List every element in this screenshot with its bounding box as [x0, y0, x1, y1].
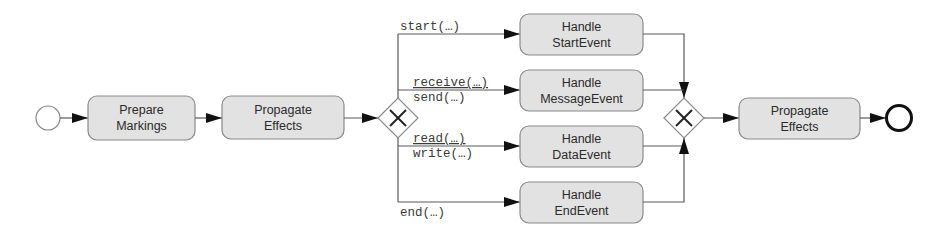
task-label-line1: Handle — [562, 76, 602, 90]
gateway-split[interactable] — [378, 98, 418, 138]
task-label-line2: DataEvent — [552, 148, 611, 162]
flow-start-to-join — [643, 34, 684, 98]
task-label-line1: Handle — [562, 20, 602, 34]
task-label-line1: Propagate — [254, 103, 312, 117]
task-label-line2: StartEvent — [552, 36, 611, 50]
task-label-line1: Handle — [562, 132, 602, 146]
task-prepare-markings[interactable]: Prepare Markings — [88, 96, 195, 140]
task-label-line1: Handle — [562, 188, 602, 202]
task-propagate-effects-1[interactable]: Propagate Effects — [222, 96, 344, 139]
task-label-line2: Effects — [781, 120, 819, 134]
task-label-line2: EndEvent — [554, 204, 609, 218]
flow-label-end: end(…) — [400, 206, 445, 220]
flow-label-send: send(…) — [413, 91, 466, 105]
flow-label-start: start(…) — [400, 20, 460, 34]
task-handle-data-event[interactable]: Handle DataEvent — [520, 126, 643, 167]
task-handle-end-event[interactable]: Handle EndEvent — [520, 182, 643, 223]
task-label-line2: Effects — [264, 119, 302, 133]
process-diagram: Prepare Markings Propagate Effects start… — [0, 0, 946, 241]
flow-label-write: write(…) — [413, 147, 473, 161]
start-event[interactable] — [36, 106, 60, 130]
flow-label-read: read(…) — [413, 132, 466, 146]
task-handle-start-event[interactable]: Handle StartEvent — [520, 14, 643, 55]
task-propagate-effects-2[interactable]: Propagate Effects — [739, 98, 860, 139]
task-handle-message-event[interactable]: Handle MessageEvent — [520, 70, 643, 111]
flow-end-to-join — [643, 138, 684, 202]
flow-label-receive: receive(…) — [413, 76, 488, 90]
gateway-join[interactable] — [664, 98, 704, 138]
end-event[interactable] — [887, 106, 912, 131]
task-label-line1: Prepare — [119, 103, 164, 117]
task-label-line2: MessageEvent — [540, 92, 623, 106]
task-label-line1: Propagate — [771, 104, 829, 118]
task-label-line2: Markings — [116, 119, 167, 133]
